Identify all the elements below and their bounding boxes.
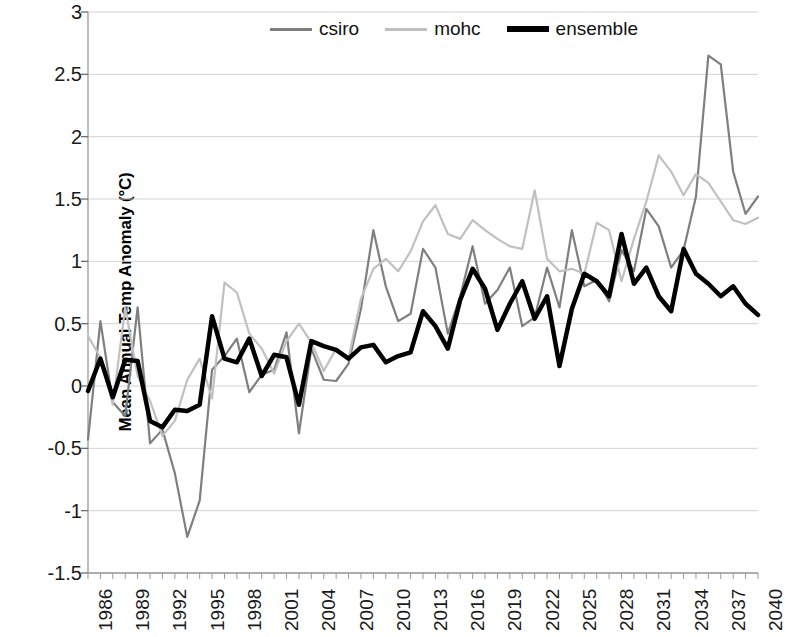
legend-label-csiro: csiro	[319, 18, 359, 40]
series-line-ensemble	[88, 234, 758, 427]
chart-legend: csiro mohc ensemble	[270, 18, 638, 40]
legend-item-ensemble[interactable]: ensemble	[507, 18, 638, 40]
legend-item-mohc[interactable]: mohc	[385, 18, 480, 40]
legend-label-mohc: mohc	[434, 18, 480, 40]
legend-line-csiro-icon	[270, 28, 312, 31]
legend-item-csiro[interactable]: csiro	[270, 18, 359, 40]
legend-line-ensemble-icon	[507, 26, 549, 32]
legend-label-ensemble: ensemble	[556, 18, 638, 40]
legend-line-mohc-icon	[385, 28, 427, 31]
